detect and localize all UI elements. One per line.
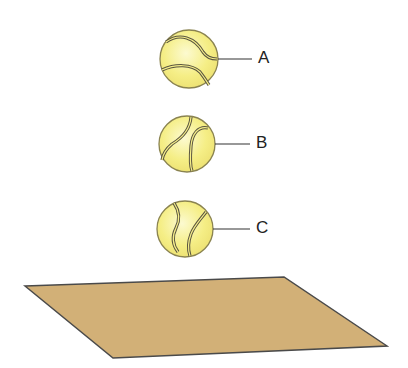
label-c: C: [256, 218, 268, 238]
label-a: A: [258, 48, 269, 68]
ground-surface: [25, 277, 387, 358]
tennis-ball-b: [159, 116, 250, 172]
tennis-ball-a: [160, 30, 252, 88]
label-b: B: [256, 133, 267, 153]
diagram-canvas: [0, 0, 408, 368]
tennis-ball-c: [157, 201, 250, 257]
